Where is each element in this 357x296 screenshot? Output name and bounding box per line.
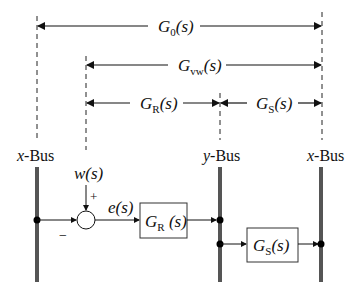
plus-sign: + bbox=[90, 189, 97, 204]
input-signal-label: w(s) bbox=[74, 164, 104, 183]
node-right bbox=[318, 241, 325, 248]
gs-span-label: GS(s) bbox=[256, 94, 293, 115]
span-gvw: Gvw(s) bbox=[87, 56, 321, 77]
bus-label-middle: y-Bus bbox=[201, 147, 240, 165]
span-gs: GS(s) bbox=[221, 94, 321, 115]
gvw-label: Gvw(s) bbox=[178, 56, 222, 77]
bus-right bbox=[319, 167, 323, 282]
node-ybus-top bbox=[217, 217, 224, 224]
error-signal-label: e(s) bbox=[108, 198, 134, 217]
bus-label-right: x-Bus bbox=[306, 147, 344, 164]
bus-middle bbox=[218, 167, 222, 282]
span-g0: G0(s) bbox=[38, 17, 321, 38]
minus-sign: − bbox=[59, 228, 67, 243]
summing-junction bbox=[77, 211, 95, 229]
bus-left bbox=[35, 167, 39, 282]
gr-span-label: GR(s) bbox=[140, 94, 178, 115]
block-diagram: G0(s) Gvw(s) GR(s) GS(s) x-Bus y-Bus x-B… bbox=[0, 0, 357, 296]
span-gr: GR(s) bbox=[87, 94, 219, 115]
block-gr-label: GR (s) bbox=[145, 212, 187, 233]
block-gs-label: GS(s) bbox=[253, 236, 290, 257]
bus-label-left: x-Bus bbox=[16, 147, 54, 164]
g0-label: G0(s) bbox=[158, 17, 194, 38]
